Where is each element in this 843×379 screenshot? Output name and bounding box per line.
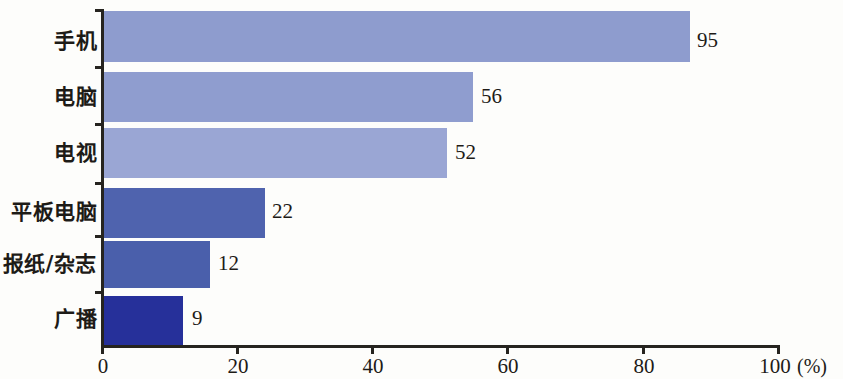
bar-row[interactable]: [104, 11, 690, 62]
x-axis-tick-label: 60: [498, 356, 519, 377]
bar-fill: [104, 11, 690, 62]
y-axis-tick: [95, 123, 104, 126]
bar-value-label: 95: [697, 30, 718, 51]
bar-value-label: 56: [481, 86, 502, 107]
bar-row[interactable]: [104, 72, 473, 122]
x-axis-tick-label: 80: [634, 356, 655, 377]
bar-row[interactable]: [104, 188, 265, 238]
bar-fill: [104, 128, 447, 178]
y-axis-tick: [95, 66, 104, 69]
x-axis-tick: [236, 345, 239, 354]
bar-fill: [104, 188, 265, 238]
bar-row[interactable]: [104, 128, 447, 178]
category-label: 手机: [54, 31, 97, 52]
bar-value-label: 22: [272, 201, 293, 222]
bar-chart-figure: 手机 95 电脑 56 电视 52 平板电脑 22 报纸/杂志 12 广播 9: [0, 0, 843, 379]
x-axis-tick: [506, 345, 509, 354]
x-axis-tick: [371, 345, 374, 354]
category-label: 电脑: [54, 87, 97, 108]
y-axis-tick: [95, 9, 104, 12]
bar-fill: [104, 296, 183, 345]
y-axis-tick: [95, 235, 104, 238]
x-axis-tick: [101, 345, 104, 354]
bar-fill: [104, 72, 473, 122]
bar-row[interactable]: [104, 241, 210, 288]
bar-row[interactable]: [104, 296, 183, 345]
x-axis-tick-label: 20: [228, 356, 249, 377]
category-label: 广播: [54, 309, 97, 330]
x-axis-tick: [642, 345, 645, 354]
x-axis-unit-label: (%): [797, 356, 827, 376]
x-axis-line: [101, 345, 780, 348]
x-axis-tick: [777, 345, 780, 354]
bar-value-label: 9: [192, 308, 203, 329]
x-axis-tick-label: 100: [759, 356, 791, 377]
bar-value-label: 12: [218, 253, 239, 274]
x-axis-tick-label: 0: [98, 356, 109, 377]
y-axis-tick: [95, 291, 104, 294]
category-label: 平板电脑: [11, 202, 97, 223]
category-label: 电视: [54, 143, 97, 164]
plot-area: 手机 95 电脑 56 电视 52 平板电脑 22 报纸/杂志 12 广播 9: [0, 0, 843, 379]
y-axis-tick: [95, 182, 104, 185]
x-axis-tick-label: 40: [363, 356, 384, 377]
category-label: 报纸/杂志: [3, 254, 97, 275]
bar-value-label: 52: [455, 142, 476, 163]
bar-fill: [104, 241, 210, 288]
